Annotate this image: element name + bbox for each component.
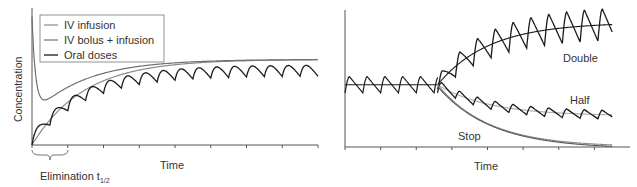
right-chart: Double Half Stop Time bbox=[345, 9, 630, 172]
half-life-brace bbox=[32, 150, 68, 160]
double-label: Double bbox=[563, 52, 598, 64]
oral-doses-curve bbox=[32, 65, 318, 145]
iv-infusion-curve bbox=[32, 60, 318, 145]
right-x-axis-label: Time bbox=[474, 160, 498, 172]
baseline-steady-state bbox=[345, 77, 438, 93]
elimination-half-life-label: Elimination t1/2 bbox=[40, 170, 110, 184]
pharmacokinetics-figure: IV infusion IV bolus + infusion Oral dos… bbox=[0, 0, 637, 187]
left-chart: IV infusion IV bolus + infusion Oral dos… bbox=[12, 8, 318, 184]
legend: IV infusion IV bolus + infusion Oral dos… bbox=[40, 15, 164, 62]
double-dose-curve bbox=[438, 9, 613, 93]
legend-label-iv-bolus: IV bolus + infusion bbox=[64, 34, 154, 46]
legend-label-oral: Oral doses bbox=[64, 49, 118, 61]
stop-label: Stop bbox=[458, 130, 481, 142]
half-label: Half bbox=[570, 94, 591, 106]
y-axis-label: Concentration bbox=[12, 56, 24, 122]
legend-label-iv-infusion: IV infusion bbox=[64, 19, 115, 31]
left-x-axis-label: Time bbox=[160, 159, 184, 171]
